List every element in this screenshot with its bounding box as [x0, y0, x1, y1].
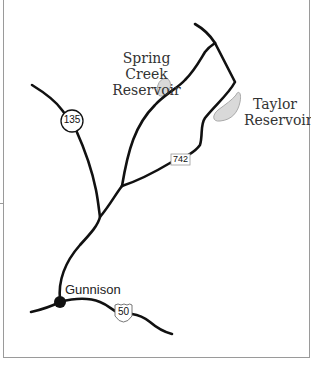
road-north-spur	[195, 24, 215, 43]
taylor-label-line2: Reservoir	[244, 112, 306, 128]
taylor-reservoir-shape	[214, 92, 241, 121]
spring-creek-reservoir-label: Spring Creek Reservoir	[104, 50, 189, 98]
spring-creek-label-line1: Spring Creek	[104, 50, 189, 82]
taylor-reservoir-label: Taylor Reservoir	[244, 96, 306, 128]
route-135-label: 135	[61, 114, 83, 125]
route-50-label: 50	[115, 306, 132, 317]
taylor-label-line1: Taylor	[244, 96, 306, 112]
map: 135 742 50 Spring Creek Reservoir Taylor…	[0, 0, 311, 374]
road-us-50-east	[132, 314, 172, 334]
road-135	[76, 130, 100, 217]
spring-creek-label-line2: Reservoir	[104, 82, 189, 98]
route-742-label: 742	[171, 154, 190, 165]
gunnison-label: Gunnison	[65, 282, 121, 297]
road-us-50	[31, 299, 117, 312]
gunnison-marker	[54, 296, 66, 308]
